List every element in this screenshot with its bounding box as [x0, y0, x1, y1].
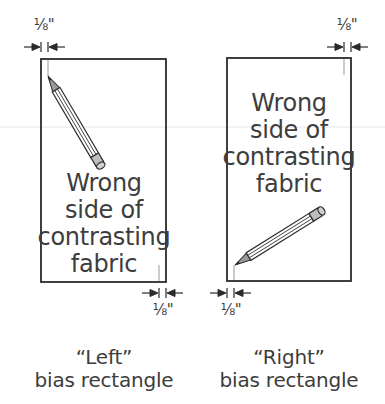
- right-top-dimension-arrow-icon: [327, 42, 368, 52]
- left-fabric-label: Wrong side of contrasting fabric: [34, 170, 174, 278]
- left-fabric-label-line-4: fabric: [34, 251, 174, 278]
- left-top-measurement-label: ⅛": [24, 18, 64, 33]
- left-bottom-measurement-label: ⅛": [143, 303, 183, 318]
- right-caption-title: “Right”: [204, 346, 374, 369]
- right-fabric-label-line-4: fabric: [219, 171, 359, 198]
- right-fabric-label-line-1: Wrong: [219, 90, 359, 117]
- left-caption: “Left” bias rectangle: [19, 346, 189, 392]
- right-bottom-measurement-label: ⅛": [211, 303, 251, 318]
- right-top-measurement-label: ⅛": [327, 18, 367, 33]
- left-fabric-label-line-3: contrasting: [34, 224, 174, 251]
- left-top-dimension-arrow-icon: [24, 42, 65, 52]
- right-fabric-label-line-3: contrasting: [219, 144, 359, 171]
- left-bottom-dimension-arrow-icon: [142, 288, 183, 298]
- left-caption-subtitle: bias rectangle: [19, 369, 189, 392]
- left-fabric-label-line-2: side of: [34, 197, 174, 224]
- right-caption-subtitle: bias rectangle: [204, 369, 374, 392]
- right-fabric-label: Wrong side of contrasting fabric: [219, 90, 359, 198]
- right-pencil-icon: [233, 206, 327, 269]
- right-bottom-dimension-arrow-icon: [210, 288, 251, 298]
- left-pencil-icon: [44, 74, 106, 171]
- left-fabric-label-line-1: Wrong: [34, 170, 174, 197]
- right-caption: “Right” bias rectangle: [204, 346, 374, 392]
- right-fabric-label-line-2: side of: [219, 117, 359, 144]
- left-caption-title: “Left”: [19, 346, 189, 369]
